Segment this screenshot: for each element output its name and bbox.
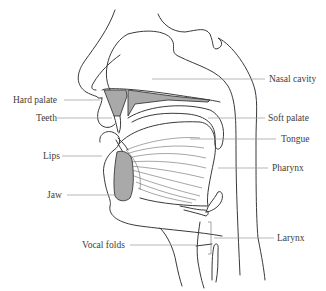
soft-palate <box>128 106 224 149</box>
label-pharynx: Pharynx <box>272 164 304 174</box>
label-vocal-folds: Vocal folds <box>82 241 125 251</box>
label-lips: Lips <box>43 152 60 162</box>
hard-palate-bone <box>104 90 127 116</box>
label-larynx: Larynx <box>277 234 304 244</box>
label-jaw: Jaw <box>47 191 62 201</box>
label-hard-palate: Hard palate <box>13 96 57 106</box>
larynx-front <box>160 228 182 286</box>
epiglottis <box>206 192 222 212</box>
pharynx-posterior-wall <box>158 14 265 280</box>
tongue-fibers <box>126 138 206 204</box>
vocal-tract-diagram <box>0 0 326 291</box>
label-nasal-cavity: Nasal cavity <box>269 75 316 85</box>
label-soft-palate: Soft palate <box>268 114 309 124</box>
jaw-bone <box>114 151 133 201</box>
vocal-fold <box>196 244 212 246</box>
larynx-wall <box>197 222 204 288</box>
larynx-bracket <box>208 222 211 254</box>
label-teeth: Teeth <box>36 114 57 124</box>
label-tongue: Tongue <box>281 135 309 145</box>
hyoid <box>180 206 208 216</box>
face-profile-upper <box>78 10 115 98</box>
arytenoid <box>212 244 218 282</box>
